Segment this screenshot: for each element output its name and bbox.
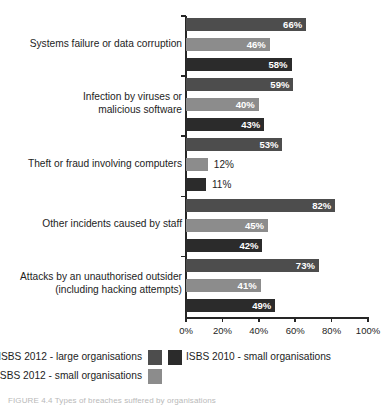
x-tick-0 bbox=[185, 317, 187, 322]
bar-value-3-1: 45% bbox=[245, 219, 264, 232]
category-separator-4 bbox=[181, 256, 186, 258]
category-separator-1 bbox=[181, 75, 186, 77]
bar-chart: 0%20%40%60%80%100% Systems failure or da… bbox=[0, 0, 391, 405]
category-label-1: Infection by viruses or malicious softwa… bbox=[83, 90, 182, 116]
legend-label-isbs-2012-large: ISBS 2012 - large organisations bbox=[0, 348, 142, 366]
bar-value-2-2: 11% bbox=[212, 178, 231, 191]
legend-label-isbs-2012-small: ISBS 2012 - small organisations bbox=[0, 367, 142, 385]
bar-value-4-1: 41% bbox=[238, 279, 257, 292]
x-tick-40 bbox=[258, 317, 260, 322]
x-tick-20 bbox=[222, 317, 224, 322]
x-tick-label-80: 80% bbox=[322, 325, 341, 336]
bar-value-1-1: 40% bbox=[236, 98, 255, 111]
bar-value-4-2: 49% bbox=[252, 299, 271, 312]
legend-row-2: ISBS 2012 - small organisations bbox=[44, 367, 354, 385]
x-tick-label-0: 0% bbox=[179, 325, 193, 336]
figure-caption: FIGURE 4.4 Types of breaches suffered by… bbox=[8, 396, 216, 405]
bar-value-3-2: 42% bbox=[239, 239, 258, 252]
bar-2-2 bbox=[186, 178, 206, 191]
bar-2-1 bbox=[186, 158, 208, 171]
legend-row-1: ISBS 2012 - large organisations ISBS 201… bbox=[44, 348, 354, 366]
legend-swatch-isbs-2012-small bbox=[148, 369, 162, 384]
bar-value-0-1: 46% bbox=[247, 38, 266, 51]
plot-area: 0%20%40%60%80%100% Systems failure or da… bbox=[0, 0, 391, 405]
category-label-4: Attacks by an unauthorised outsider (inc… bbox=[20, 270, 182, 296]
legend-label-isbs-2010-small: ISBS 2010 - small organisations bbox=[186, 348, 331, 366]
x-tick-label-40: 40% bbox=[249, 325, 268, 336]
x-tick-label-60: 60% bbox=[286, 325, 305, 336]
x-tick-60 bbox=[294, 317, 296, 322]
category-label-3: Other incidents caused by staff bbox=[42, 217, 182, 230]
x-tick-label-20: 20% bbox=[213, 325, 232, 336]
category-label-0: Systems failure or data corruption bbox=[30, 36, 182, 49]
category-separator-2 bbox=[181, 135, 186, 137]
x-tick-80 bbox=[331, 317, 333, 322]
bar-value-2-0: 53% bbox=[259, 138, 278, 151]
category-label-2: Theft or fraud involving computers bbox=[28, 156, 182, 169]
legend: ISBS 2012 - large organisations ISBS 201… bbox=[44, 348, 354, 390]
legend-swatch-isbs-2012-large bbox=[148, 350, 162, 365]
bar-value-0-2: 58% bbox=[269, 58, 288, 71]
category-separator-0 bbox=[181, 15, 186, 17]
bar-value-2-1: 12% bbox=[214, 158, 234, 171]
bar-value-0-0: 66% bbox=[283, 18, 302, 31]
bar-value-3-0: 82% bbox=[312, 199, 331, 212]
category-separator-3 bbox=[181, 196, 186, 198]
x-tick-100 bbox=[367, 317, 369, 322]
x-axis-line bbox=[185, 317, 368, 319]
bar-value-1-0: 59% bbox=[270, 78, 289, 91]
bar-value-1-2: 43% bbox=[241, 118, 260, 131]
x-tick-label-100: 100% bbox=[356, 325, 380, 336]
legend-swatch-isbs-2010-small bbox=[168, 350, 182, 365]
bar-value-4-0: 73% bbox=[296, 259, 315, 272]
